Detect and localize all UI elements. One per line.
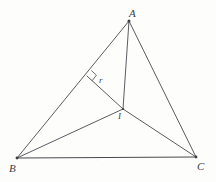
inradius-label-r: r [99,76,103,85]
vertex-label-i: I [118,112,121,121]
segment-inradius [87,76,123,109]
vertex-dot-b [16,157,19,160]
segment-side-ca [129,21,196,157]
right-angle-icon [91,70,96,80]
vertex-dot-i [122,108,124,110]
figure-canvas [0,0,216,182]
angle-bisectors [17,21,196,158]
vertex-label-a: A [129,8,136,19]
vertex-label-b: B [9,163,16,174]
inradius-group [87,70,123,109]
segment-side-ab [17,21,129,158]
segment-bisector-c-to-i [123,109,196,157]
segment-bisector-b-to-i [17,109,123,158]
vertex-dots [16,20,198,160]
vertex-dot-c [195,156,198,159]
vertex-label-c: C [197,161,204,172]
geometry-figure: A B C I r [0,0,216,182]
vertex-dot-a [128,20,131,23]
segment-bisector-a-to-i [123,21,129,109]
segment-side-bc [17,157,196,158]
triangle-sides [17,21,196,158]
